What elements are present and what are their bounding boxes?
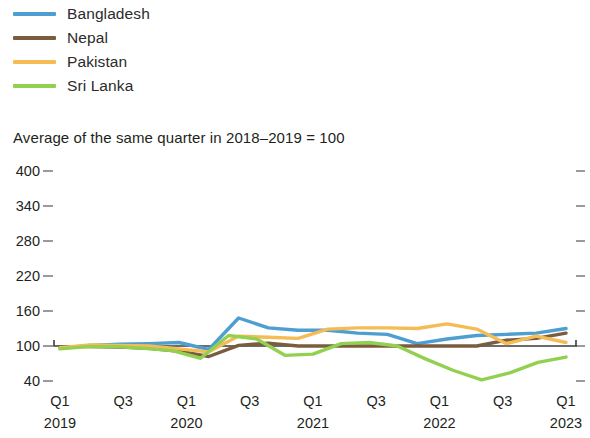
- x-tick-year: 2023: [550, 415, 582, 431]
- y-tick-label: 100: [16, 338, 40, 354]
- y-axis-labels: 40034028022016010040: [16, 163, 40, 389]
- x-tick-quarter: Q1: [556, 393, 575, 409]
- legend-label-sri-lanka: Sri Lanka: [67, 78, 133, 94]
- x-tick-quarter: Q1: [177, 393, 196, 409]
- legend-label-bangladesh: Bangladesh: [67, 6, 150, 22]
- legend-item-sri-lanka: Sri Lanka: [13, 74, 313, 98]
- legend-item-pakistan: Pakistan: [13, 50, 313, 74]
- legend-item-bangladesh: Bangladesh: [13, 2, 313, 26]
- y-axis-ticks: [43, 171, 53, 381]
- legend-swatch-pakistan: [13, 60, 56, 64]
- x-tick-quarter: Q1: [430, 393, 449, 409]
- x-tick-year: 2020: [170, 415, 202, 431]
- chart-subtitle: Average of the same quarter in 2018–2019…: [13, 129, 345, 146]
- right-axis-ticks: [576, 171, 585, 381]
- y-tick-label: 340: [16, 198, 40, 214]
- x-tick-quarter: Q1: [50, 393, 69, 409]
- legend-swatch-bangladesh: [13, 12, 56, 16]
- legend-swatch-nepal: [13, 36, 56, 40]
- x-tick-quarter: Q1: [303, 393, 322, 409]
- series-lines: [60, 318, 566, 380]
- x-tick-year: 2019: [44, 415, 76, 431]
- legend-label-nepal: Nepal: [67, 30, 108, 46]
- x-tick-quarter: Q3: [493, 393, 512, 409]
- y-tick-label: 160: [16, 303, 40, 319]
- x-tick-year: 2021: [297, 415, 329, 431]
- y-tick-label: 220: [16, 268, 40, 284]
- legend-item-nepal: Nepal: [13, 26, 313, 50]
- chart-figure: Bangladesh Nepal Pakistan Sri Lanka Aver…: [0, 0, 590, 438]
- legend-swatch-sri-lanka: [13, 84, 56, 88]
- x-tick-quarter: Q3: [240, 393, 259, 409]
- y-tick-label: 280: [16, 233, 40, 249]
- y-tick-label: 40: [24, 373, 40, 389]
- x-tick-quarter: Q3: [114, 393, 133, 409]
- y-tick-label: 400: [16, 163, 40, 179]
- legend-label-pakistan: Pakistan: [67, 54, 127, 70]
- x-axis-labels: Q12019Q3Q12020Q3Q12021Q3Q12022Q3Q12023: [44, 393, 582, 431]
- x-tick-quarter: Q3: [367, 393, 386, 409]
- chart-svg: 40034028022016010040 Q12019Q3Q12020Q3Q12…: [0, 158, 590, 438]
- chart-plot-area: 40034028022016010040 Q12019Q3Q12020Q3Q12…: [0, 158, 590, 438]
- x-tick-year: 2022: [423, 415, 455, 431]
- chart-legend: Bangladesh Nepal Pakistan Sri Lanka: [13, 2, 313, 98]
